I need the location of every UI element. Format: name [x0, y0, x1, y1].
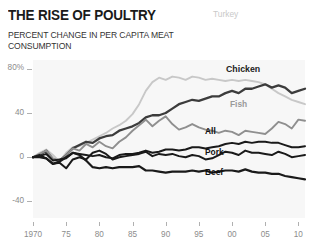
series-label-chicken: Chicken [226, 64, 260, 74]
y-tick-label: 0 [0, 152, 24, 161]
series-line-all [33, 142, 305, 161]
series-label-all: All [205, 126, 216, 136]
x-tick-label: 10 [294, 230, 303, 239]
x-tick-mark [265, 222, 266, 226]
series-label-beef: Beef [205, 167, 223, 177]
x-tick-label: 1970 [24, 230, 42, 239]
x-tick-label: 85 [128, 230, 137, 239]
series-label-turkey: Turkey [213, 9, 238, 19]
page-title: THE RISE OF POULTRY [8, 7, 156, 23]
x-tick-mark [298, 222, 299, 226]
series-line-beef [33, 153, 305, 180]
x-tick-mark [66, 222, 67, 226]
series-label-pork: Pork [205, 147, 224, 157]
y-tick-label: 40 [0, 108, 24, 117]
x-tick-label: 95 [194, 230, 203, 239]
y-tick-label: 80% [0, 63, 24, 72]
y-tick-mark [27, 201, 32, 202]
x-tick-label: 05 [261, 230, 270, 239]
x-tick-mark [133, 222, 134, 226]
chart-figure: THE RISE OF POULTRY PERCENT CHANGE IN PE… [0, 0, 313, 252]
plot-area [33, 60, 305, 218]
series-lines [33, 60, 305, 218]
x-tick-label: 90 [161, 230, 170, 239]
y-tick-label: -40 [0, 196, 24, 205]
series-label-fish: Fish [230, 99, 247, 109]
x-tick-mark [199, 222, 200, 226]
y-tick-mark [27, 113, 32, 114]
y-tick-mark [27, 157, 32, 158]
chart-subtitle: PERCENT CHANGE IN PER CAPITA MEAT CONSUM… [8, 30, 188, 51]
x-tick-label: 80 [95, 230, 104, 239]
x-tick-mark [166, 222, 167, 226]
x-tick-mark [33, 222, 34, 226]
x-tick-mark [99, 222, 100, 226]
x-tick-label: 00 [227, 230, 236, 239]
x-tick-mark [232, 222, 233, 226]
y-tick-mark [27, 69, 32, 70]
x-tick-label: 75 [62, 230, 71, 239]
